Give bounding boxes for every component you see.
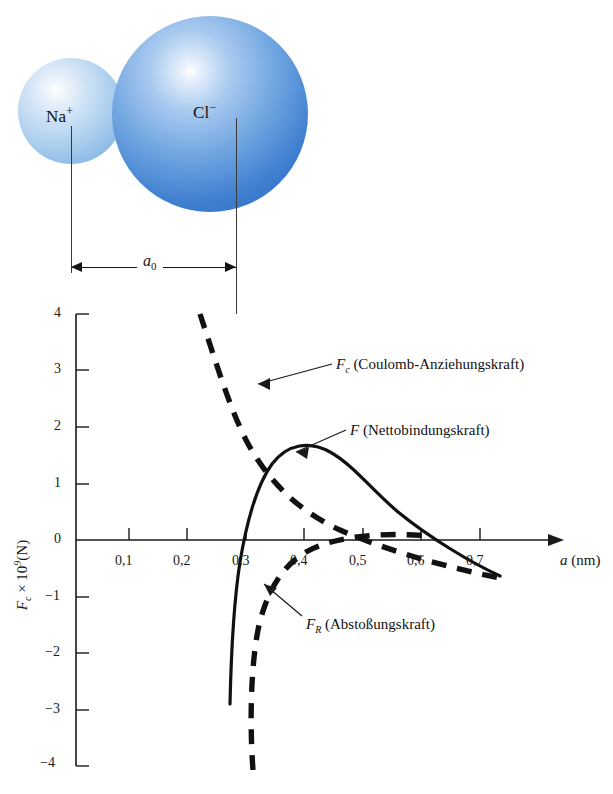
a0-subscript: 0 (151, 260, 157, 272)
chloride-center-line (236, 118, 237, 314)
y-tick-label-m2: −2 (45, 644, 60, 660)
fr-symbol: F (306, 616, 315, 632)
y-tick-label-0: 0 (54, 531, 61, 547)
fr-annotation-label: FR (Abstoßungskraft) (306, 616, 435, 635)
y-tick-label-2: 2 (54, 418, 61, 434)
na-charge: + (66, 104, 73, 118)
y-tick-label-m4: −4 (40, 755, 55, 771)
x-tick-label-05: 0,5 (349, 553, 367, 569)
dimension-arrow-right-icon (225, 262, 236, 272)
x-axis-symbol: a (560, 552, 568, 568)
x-tick-label-06: 0,6 (407, 553, 425, 569)
x-tick-label-04: 0,4 (290, 553, 308, 569)
na-symbol: Na (46, 107, 66, 126)
x-axis-title: a (nm) (560, 552, 600, 569)
a0-label: a0 (137, 252, 163, 272)
fr-text: (Abstoßungskraft) (321, 616, 435, 632)
fc-annotation-label: Fc (Coulomb-Anziehungskraft) (336, 356, 524, 375)
f-symbol: F (350, 422, 359, 438)
net-bonding-force-curve (230, 445, 500, 704)
sodium-center-line (71, 126, 72, 273)
chloride-ion-label: Cl− (193, 100, 216, 123)
f-text: (Nettobindungskraft) (359, 422, 489, 438)
y-axis-unit: (N) (14, 540, 30, 561)
y-tick-label-m3: −3 (45, 701, 60, 717)
x-axis-unit: (nm) (568, 552, 601, 568)
fc-text: (Coulomb-Anziehungskraft) (350, 356, 525, 372)
fc-leader-arrow-icon (258, 378, 270, 390)
cl-charge: − (209, 100, 216, 114)
y-tick-label-1: 1 (54, 475, 61, 491)
y-axis-exponent: 9 (12, 561, 23, 566)
dimension-arrow-left-icon (71, 262, 82, 272)
y-axis-multiplier: × 10 (14, 566, 30, 597)
y-tick-label-4: 4 (54, 305, 61, 321)
x-axis-arrow-icon (548, 534, 564, 546)
sodium-ion-label: Na+ (46, 104, 73, 127)
a0-symbol: a (143, 252, 151, 269)
f-annotation-label: F (Nettobindungskraft) (350, 422, 490, 439)
y-axis-subscript: c (22, 597, 33, 601)
x-tick-label-02: 0,2 (173, 553, 191, 569)
y-tick-label-3: 3 (54, 361, 61, 377)
x-tick-label-03: 0,3 (232, 553, 250, 569)
y-axis-symbol: F (14, 601, 30, 610)
interionic-distance-dimension: a0 (71, 262, 236, 274)
y-tick-label-m1: −1 (45, 588, 60, 604)
fc-symbol: F (336, 356, 345, 372)
x-tick-label-01: 0,1 (115, 553, 133, 569)
x-tick-label-07: 0,7 (466, 553, 484, 569)
repulsive-force-curve (251, 535, 430, 770)
ionic-bonding-figure: Na+ Cl− a0 (0, 0, 613, 794)
cl-symbol: Cl (193, 103, 209, 122)
y-axis-title: Fc × 109(N) (12, 505, 33, 645)
